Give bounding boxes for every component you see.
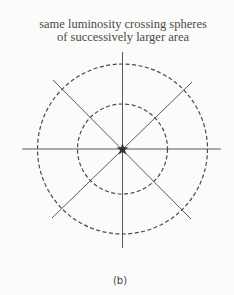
figure-label: (b) [0, 275, 234, 286]
sphere-diagram [0, 0, 234, 295]
